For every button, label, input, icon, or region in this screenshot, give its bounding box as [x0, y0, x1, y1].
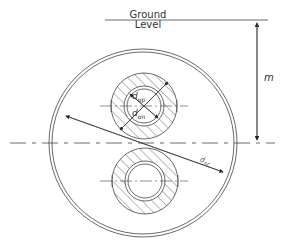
- ground-level-label: Ground Level: [122, 10, 174, 30]
- depth-label: m: [264, 72, 274, 83]
- lower-pipe: [100, 148, 188, 214]
- upper-pipe: [100, 73, 188, 139]
- pipe-cross-section-diagram: [0, 0, 281, 240]
- inner-pipe-diameter-label: don: [132, 108, 145, 120]
- outer-pipe-diameter-label: dop: [132, 91, 145, 103]
